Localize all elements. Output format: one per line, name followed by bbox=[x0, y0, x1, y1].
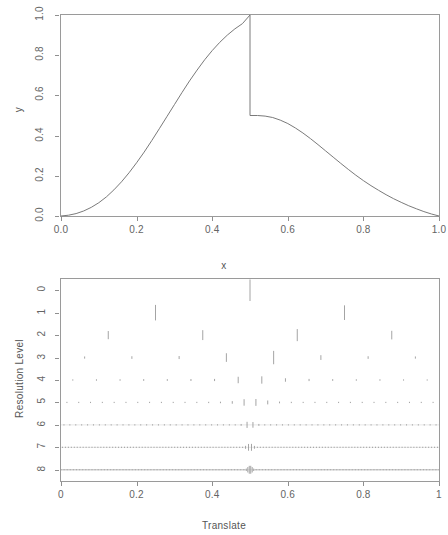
wavelet-coefficients-svg bbox=[61, 279, 439, 481]
top-y-tick-mark bbox=[55, 95, 59, 96]
bottom-y-tick-mark bbox=[55, 470, 59, 471]
top-y-tick-label: 0.4 bbox=[34, 121, 45, 147]
bottom-y-tick-label: 3 bbox=[36, 345, 47, 367]
top-x-tick-label: 0.6 bbox=[272, 224, 304, 235]
bottom-panel-wavelet-plot: 012345678 00.20.40.60.81 Resolution Leve… bbox=[0, 270, 448, 535]
function-curve-svg bbox=[61, 15, 439, 216]
bottom-y-tick-label: 6 bbox=[36, 412, 47, 434]
bottom-y-tick-mark bbox=[55, 313, 59, 314]
top-x-tick-label: 0.4 bbox=[196, 224, 228, 235]
top-y-tick-label: 0.0 bbox=[34, 202, 45, 228]
bottom-y-tick-mark bbox=[55, 290, 59, 291]
top-plot-box bbox=[60, 14, 440, 217]
bottom-y-tick-label: 8 bbox=[36, 457, 47, 479]
bottom-y-tick-mark bbox=[55, 380, 59, 381]
bottom-y-tick-mark bbox=[55, 358, 59, 359]
top-x-tick-label: 0.8 bbox=[347, 224, 379, 235]
bottom-x-tick-label: 0.8 bbox=[347, 489, 379, 500]
bottom-x-tick-mark bbox=[363, 482, 364, 486]
bottom-x-tick-mark bbox=[439, 482, 440, 486]
bottom-x-tick-label: 1 bbox=[423, 489, 448, 500]
top-x-tick-mark bbox=[288, 217, 289, 221]
top-y-tick-mark bbox=[55, 176, 59, 177]
top-y-tick-label: 1.0 bbox=[34, 1, 45, 27]
top-x-tick-label: 1.0 bbox=[423, 224, 448, 235]
bottom-y-tick-label: 7 bbox=[36, 435, 47, 457]
top-y-tick-label: 0.6 bbox=[34, 81, 45, 107]
bottom-y-tick-mark bbox=[55, 402, 59, 403]
bottom-y-tick-mark bbox=[55, 335, 59, 336]
wavelet-figure: 0.00.20.40.60.81.0 0.00.20.40.60.81.0 y … bbox=[0, 0, 448, 535]
bottom-x-tick-label: 0.4 bbox=[196, 489, 228, 500]
bottom-x-tick-label: 0.6 bbox=[272, 489, 304, 500]
bottom-y-tick-label: 2 bbox=[36, 323, 47, 345]
bottom-y-tick-mark bbox=[55, 447, 59, 448]
top-x-tick-mark bbox=[61, 217, 62, 221]
bottom-y-tick-label: 1 bbox=[36, 300, 47, 322]
bottom-x-tick-mark bbox=[61, 482, 62, 486]
coefficient-spikes-group bbox=[61, 279, 439, 473]
top-x-tick-label: 0.2 bbox=[121, 224, 153, 235]
top-y-tick-mark bbox=[55, 216, 59, 217]
bottom-plot-box bbox=[60, 278, 440, 482]
bottom-y-tick-label: 5 bbox=[36, 390, 47, 412]
top-y-tick-mark bbox=[55, 136, 59, 137]
bottom-y-tick-mark bbox=[55, 425, 59, 426]
bottom-x-axis-title: Translate bbox=[0, 520, 448, 531]
top-x-tick-mark bbox=[439, 217, 440, 221]
top-x-tick-mark bbox=[363, 217, 364, 221]
bottom-y-tick-label: 0 bbox=[36, 278, 47, 300]
bottom-x-tick-mark bbox=[212, 482, 213, 486]
bottom-x-tick-mark bbox=[137, 482, 138, 486]
bottom-y-tick-label: 4 bbox=[36, 368, 47, 390]
top-y-tick-mark bbox=[55, 15, 59, 16]
top-x-tick-label: 0.0 bbox=[45, 224, 77, 235]
function-curve-path bbox=[61, 15, 439, 216]
top-y-tick-label: 0.2 bbox=[34, 161, 45, 187]
top-panel-function-plot: 0.00.20.40.60.81.0 0.00.20.40.60.81.0 y … bbox=[0, 0, 448, 270]
bottom-x-tick-mark bbox=[288, 482, 289, 486]
bottom-x-tick-label: 0.2 bbox=[121, 489, 153, 500]
top-y-tick-label: 0.8 bbox=[34, 41, 45, 67]
top-x-tick-mark bbox=[212, 217, 213, 221]
top-y-axis-title: y bbox=[13, 90, 24, 130]
bottom-x-tick-label: 0 bbox=[45, 489, 77, 500]
top-x-tick-mark bbox=[137, 217, 138, 221]
top-y-tick-mark bbox=[55, 55, 59, 56]
bottom-y-axis-title: Resolution Level bbox=[14, 324, 25, 434]
